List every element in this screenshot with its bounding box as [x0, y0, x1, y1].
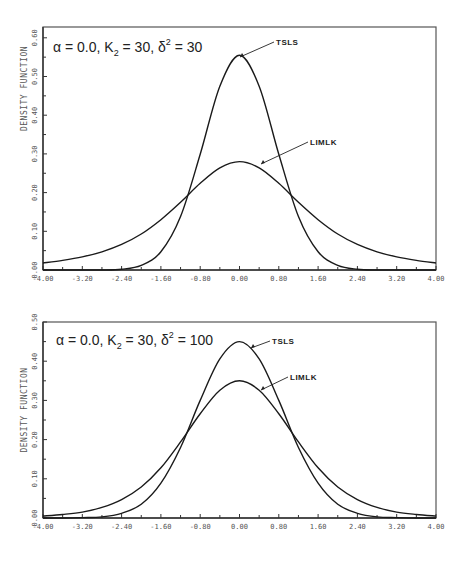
plot-frame: [43, 27, 436, 270]
x-tick-label: 0.80: [270, 275, 287, 283]
series-label-limlk: LIMLK: [310, 138, 337, 147]
y-axis-label: DENSITY FUNCTION: [20, 46, 29, 131]
x-tick-label: 4.00: [428, 523, 445, 531]
y-tick-label: 0.00: [31, 262, 39, 279]
y-tick-label: 0.40: [31, 107, 39, 124]
y-tick-label: 0.60: [31, 29, 39, 46]
y-tick-label: 0.00: [31, 510, 39, 527]
x-tick-label: -0.80: [190, 275, 211, 283]
bottom-density-plot: -4.00-3.20-2.40-1.60-0.800.000.801.602.4…: [20, 314, 444, 531]
curve-limlk: [43, 162, 436, 263]
x-tick-label: -2.40: [111, 523, 132, 531]
x-tick-label: 0.00: [231, 275, 248, 283]
annotation-arrow: [240, 42, 274, 57]
x-tick-label: -2.40: [111, 275, 132, 283]
x-tick-label: 4.00: [428, 275, 445, 283]
x-tick-label: 2.40: [349, 275, 366, 283]
x-tick-label: 3.20: [388, 275, 405, 283]
arrowhead-icon: [251, 344, 255, 348]
y-tick-label: 0.30: [31, 392, 39, 409]
y-axis-label: DENSITY FUNCTION: [20, 367, 29, 452]
curve-tsls: [43, 55, 436, 270]
y-tick-label: 0.50: [31, 314, 39, 331]
x-tick-label: -3.20: [72, 275, 93, 283]
series-label-tsls: TSLS: [272, 337, 295, 346]
y-tick-label: 0.20: [31, 431, 39, 448]
density-charts: -4.00-3.20-2.40-1.60-0.800.000.801.602.4…: [0, 0, 467, 561]
x-tick-label: 0.00: [231, 523, 248, 531]
x-tick-label: -0.80: [190, 523, 211, 531]
y-tick-label: 0.40: [31, 353, 39, 370]
y-tick-label: 0.50: [31, 68, 39, 85]
annotation-arrow: [261, 377, 288, 390]
chart-title: α = 0.0, K2 = 30, δ2 = 100: [56, 330, 213, 351]
x-tick-label: -3.20: [72, 523, 93, 531]
y-tick-label: 0.20: [31, 184, 39, 201]
series-label-tsls: TSLS: [276, 38, 299, 47]
annotation-arrow: [261, 142, 308, 164]
y-tick-label: 0.30: [31, 145, 39, 162]
curve-limlk: [43, 381, 436, 516]
chart-title: α = 0.0, K2 = 30, δ2 = 30: [53, 37, 203, 58]
top-density-plot: -4.00-3.20-2.40-1.60-0.800.000.801.602.4…: [20, 27, 444, 283]
x-tick-label: 1.60: [310, 523, 327, 531]
y-tick-label: 0.10: [31, 223, 39, 240]
x-tick-label: -1.60: [150, 275, 171, 283]
x-tick-label: 3.20: [388, 523, 405, 531]
x-tick-label: 2.40: [349, 523, 366, 531]
y-tick-label: 0.10: [31, 470, 39, 487]
x-tick-label: -1.60: [150, 523, 171, 531]
x-tick-label: 1.60: [310, 275, 327, 283]
x-tick-label: 0.80: [270, 523, 287, 531]
curve-tsls: [43, 342, 436, 518]
series-label-limlk: LIMLK: [290, 373, 317, 382]
plot-frame: [43, 322, 436, 518]
